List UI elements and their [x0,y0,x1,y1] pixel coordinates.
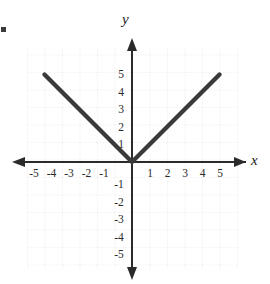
y-tick-label: 3 [110,104,132,116]
y-tick-label: -4 [108,232,130,244]
y-tick-label: 1 [110,139,132,151]
y-tick-label: 2 [110,122,132,134]
y-tick-label: -2 [108,197,130,209]
x-axis-label: x [251,153,258,168]
x-axis-arrow-left [12,157,25,167]
y-tick-label: -3 [108,214,130,226]
coordinate-plane-figure: y x -5 -4 -3 -2 -1 1 2 3 4 5 5 4 3 2 1 -… [0,0,270,284]
y-axis-arrow-up [127,38,137,51]
y-axis-arrow-down [127,267,137,280]
y-tick-label: -1 [108,179,130,191]
y-tick-label: -5 [108,249,130,261]
y-tick-label: 5 [110,69,132,81]
x-tick-label: 5 [209,168,231,180]
y-tick-label: 4 [110,87,132,99]
x-tick-label: -1 [93,168,115,180]
y-axis-label: y [122,12,129,27]
x-axis-arrow-right [234,157,246,167]
graph-canvas [0,0,270,284]
